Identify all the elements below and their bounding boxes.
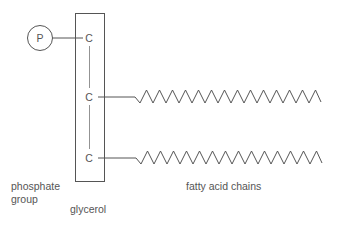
carbon-2: C bbox=[85, 91, 93, 103]
fatty-acid-chain-1 bbox=[98, 90, 321, 103]
carbon-3: C bbox=[85, 152, 93, 164]
fatty-acid-chains-label: fatty acid chains bbox=[186, 180, 261, 193]
phosphate-symbol: P bbox=[36, 32, 43, 44]
glycerol-label: glycerol bbox=[70, 203, 106, 216]
phosphate-label-line1: phosphate bbox=[11, 180, 60, 193]
phosphate-group-label: phosphate group bbox=[11, 180, 60, 206]
fatty-acid-chain-2 bbox=[98, 151, 322, 164]
phosphate-label-line2: group bbox=[11, 193, 60, 206]
carbon-1: C bbox=[85, 32, 93, 44]
